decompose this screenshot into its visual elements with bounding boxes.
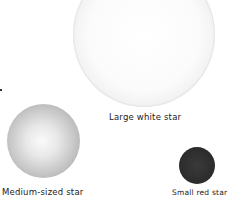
medium-sized-star xyxy=(7,104,80,178)
medium-star-label: Medium-sized star xyxy=(2,187,84,197)
large-star-label: Large white star xyxy=(109,112,181,122)
small-red-star xyxy=(179,147,215,184)
small-star-label: Small red star xyxy=(172,188,227,197)
large-white-star xyxy=(73,0,215,107)
stray-mark xyxy=(0,89,2,91)
